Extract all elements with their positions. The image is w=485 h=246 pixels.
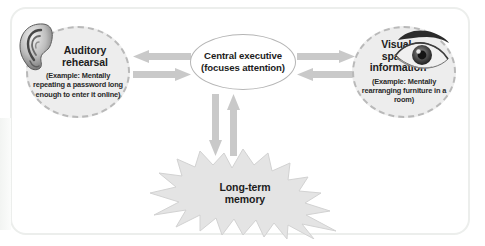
frame-left-tint [0, 118, 11, 230]
long-term-memory-label-group: Long-term memory [150, 147, 336, 239]
auditory-title-line1: Auditory [64, 45, 106, 57]
central-executive-title-line1: Central executive [204, 50, 282, 62]
auditory-example-text: (Example: Mentally repeating a password … [28, 71, 128, 99]
auditory-title-line2: rehearsal [62, 57, 108, 69]
working-memory-diagram: Long-term memory Central executive (focu… [0, 0, 485, 246]
arrow-visual-to-central [297, 68, 355, 81]
node-central-executive: Central executive (focuses attention) [190, 34, 296, 90]
central-executive-title-line2: (focuses attention) [201, 62, 285, 74]
arrow-auditory-to-central [133, 68, 191, 81]
long-term-memory-title-line2: memory [219, 193, 270, 206]
long-term-memory-title-line1: Long-term [219, 181, 270, 194]
ear-icon [17, 21, 63, 71]
node-long-term-memory: Long-term memory [150, 147, 336, 239]
arrow-central-to-visual [297, 50, 355, 63]
arrow-central-to-auditory [133, 50, 191, 63]
visual-example-text: (Example: Mentally rearranging furniture… [354, 77, 454, 105]
eye-icon [394, 28, 450, 72]
